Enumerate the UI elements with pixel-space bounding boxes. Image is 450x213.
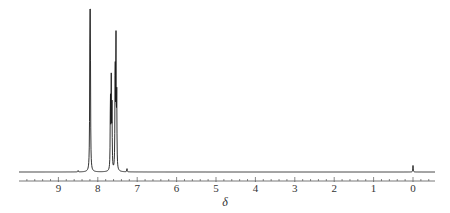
x-tick-label: 2 [331, 182, 337, 194]
spectrum-line [19, 9, 435, 172]
x-tick-label: 9 [56, 182, 62, 194]
x-axis-tick-labels: 9876543210 [56, 182, 417, 194]
x-tick-label: 7 [134, 182, 140, 194]
spectrum-trace [19, 9, 435, 172]
x-axis: 9876543210 [19, 177, 435, 194]
x-tick-label: 0 [410, 182, 416, 194]
x-tick-label: 5 [213, 182, 219, 194]
x-tick-label: 3 [292, 182, 298, 194]
x-axis-title: δ [222, 195, 228, 209]
x-tick-label: 1 [371, 182, 377, 194]
x-tick-label: 4 [253, 182, 259, 194]
x-tick-label: 8 [95, 182, 101, 194]
nmr-spectrum-chart: 9876543210 δ [0, 0, 450, 213]
x-tick-label: 6 [174, 182, 180, 194]
